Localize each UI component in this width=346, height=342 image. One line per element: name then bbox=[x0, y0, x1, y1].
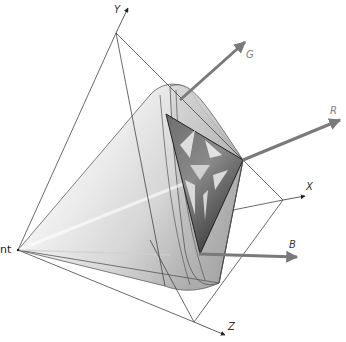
b-vector-label: B bbox=[289, 240, 296, 250]
y-axis-label: Y bbox=[114, 5, 120, 15]
x-axis-arrow bbox=[283, 196, 305, 200]
g-vector-label: G bbox=[246, 50, 254, 60]
g-vector-arrow bbox=[180, 42, 245, 100]
light-point-vertex bbox=[17, 249, 19, 251]
light-point-label: nt bbox=[0, 244, 11, 255]
color-space-cone-diagram: nt Y X Z G R B bbox=[0, 0, 346, 342]
r-vector-arrow bbox=[243, 120, 340, 160]
x-axis-label: X bbox=[306, 182, 313, 192]
z-axis-label: Z bbox=[228, 322, 235, 332]
diagram-svg bbox=[0, 0, 346, 342]
r-vector-label: R bbox=[330, 106, 337, 116]
z-axis-arrow bbox=[194, 322, 225, 335]
